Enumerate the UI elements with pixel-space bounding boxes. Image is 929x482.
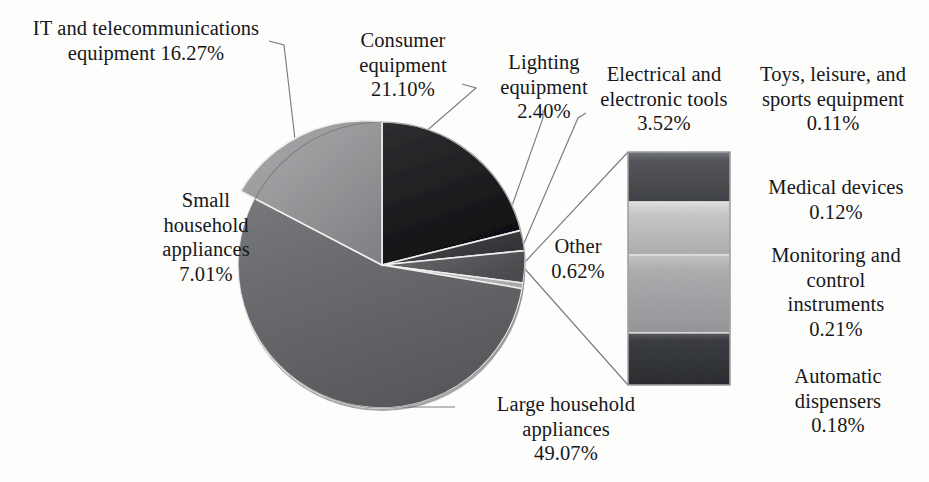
label-electrical-electronic-tools: Electrical and electronic tools 3.52% xyxy=(590,62,738,136)
label-other: Other 0.62% xyxy=(530,234,626,283)
bar-segment-monitoring-control-instruments[interactable] xyxy=(628,255,730,333)
label-it-telecommunications-equipment: IT and telecommunications equipment 16.2… xyxy=(8,16,284,65)
label-toys-leisure-sports-equipment: Toys, leisure, and sports equipment 0.11… xyxy=(740,62,926,136)
secondary-stacked-bar xyxy=(628,152,730,385)
leader-line-electrical xyxy=(521,113,586,250)
bar-segment-medical-devices[interactable] xyxy=(628,202,730,255)
label-monitoring-control-instruments: Monitoring and control instruments 0.21% xyxy=(746,243,926,341)
label-automatic-dispensers: Automatic dispensers 0.18% xyxy=(752,364,924,438)
bar-segment-automatic-dispensers[interactable] xyxy=(628,333,730,385)
leader-line-explode-bottom xyxy=(525,269,628,385)
label-medical-devices: Medical devices 0.12% xyxy=(746,175,926,224)
bar-segment-toys-leisure-sports[interactable] xyxy=(628,152,730,202)
bar-of-pie-chart-figure: IT and telecommunications equipment 16.2… xyxy=(0,0,929,482)
leader-line-lighting xyxy=(507,110,543,220)
label-small-household-appliances: Small household appliances 7.01% xyxy=(120,188,292,286)
label-large-household-appliances: Large household appliances 49.07% xyxy=(466,392,666,466)
label-consumer-equipment: Consumer equipment 21.10% xyxy=(320,28,486,102)
